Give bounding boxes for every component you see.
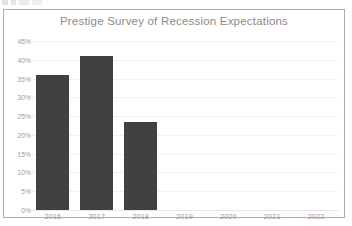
gridline bbox=[31, 116, 338, 117]
gridline bbox=[31, 60, 338, 61]
y-axis-tick-labels: 0%5%10%15%20%25%30%35%40%45% bbox=[9, 41, 31, 210]
y-axis-tick: 5% bbox=[21, 188, 31, 195]
bar-2017 bbox=[80, 56, 113, 210]
plot-area bbox=[31, 41, 338, 210]
y-axis-tick: 0% bbox=[21, 207, 31, 214]
chart-title: Prestige Survey of Recession Expectation… bbox=[4, 15, 344, 27]
bar-2018 bbox=[124, 122, 157, 210]
gridline bbox=[31, 191, 338, 192]
gridline bbox=[31, 79, 338, 80]
y-axis-tick: 45% bbox=[18, 38, 32, 45]
gridline bbox=[31, 172, 338, 173]
gridline bbox=[31, 41, 338, 42]
x-axis-tick-2019: 2019 bbox=[176, 212, 193, 221]
x-axis-tick-2016: 2016 bbox=[45, 212, 62, 221]
x-axis-tick-2021: 2021 bbox=[264, 212, 281, 221]
x-axis-tick-2022: 2022 bbox=[308, 212, 325, 221]
gridline bbox=[31, 97, 338, 98]
y-axis-tick: 10% bbox=[18, 169, 32, 176]
y-axis-tick: 30% bbox=[18, 94, 32, 101]
gridline bbox=[31, 210, 338, 211]
x-axis-tick-2018: 2018 bbox=[132, 212, 149, 221]
x-axis-tick-2020: 2020 bbox=[220, 212, 237, 221]
chart-frame: Prestige Survey of Recession Expectation… bbox=[3, 9, 345, 218]
bar-2016 bbox=[36, 75, 69, 210]
y-axis-tick: 20% bbox=[18, 131, 32, 138]
gridline bbox=[31, 135, 338, 136]
y-axis-tick: 25% bbox=[18, 113, 32, 120]
y-axis-tick: 15% bbox=[18, 150, 32, 157]
x-axis-tick-2017: 2017 bbox=[88, 212, 105, 221]
y-axis-tick: 35% bbox=[18, 75, 32, 82]
gridline bbox=[31, 154, 338, 155]
y-axis-tick: 40% bbox=[18, 56, 32, 63]
scan-edge-artifact bbox=[2, 0, 48, 5]
x-axis-tick-labels: 2016201720182019202020212022 bbox=[31, 212, 338, 226]
